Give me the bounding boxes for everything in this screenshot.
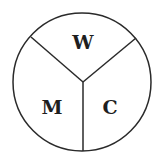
sector-label-c: C: [102, 96, 117, 118]
sector-label-m: M: [41, 96, 62, 118]
venn-sector-diagram: W M C: [0, 0, 161, 163]
sector-label-w: W: [71, 31, 94, 53]
